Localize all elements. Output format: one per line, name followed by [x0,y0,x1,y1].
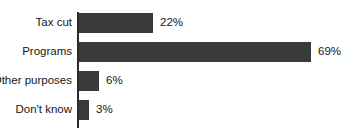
value-label: 3% [96,104,113,116]
category-label: Other purposes [0,75,72,87]
category-label: Don't know [15,104,72,116]
value-label: 69% [318,46,341,58]
category-label: Programs [22,46,72,58]
bar-row: Programs 69% [0,41,348,63]
category-label: Tax cut [36,17,72,29]
bar [79,71,99,91]
bar-row: Other purposes 6% [0,70,348,92]
value-label: 6% [106,75,123,87]
bar-row: Don't know 3% [0,99,348,121]
bar-chart: Tax cut 22% Programs 69% Other purposes … [0,0,348,139]
bar-row: Tax cut 22% [0,12,348,34]
value-label: 22% [160,17,183,29]
plot-area: Tax cut 22% Programs 69% Other purposes … [0,0,348,139]
bar [79,13,153,33]
bar [79,42,311,62]
bar [79,100,89,120]
